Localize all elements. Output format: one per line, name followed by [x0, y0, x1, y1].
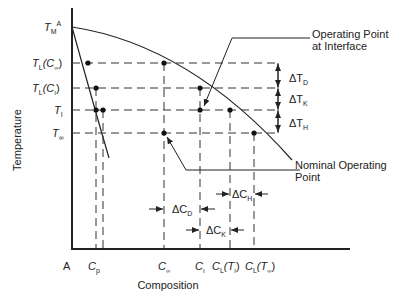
interface-annotation-line2: at Interface [312, 40, 367, 52]
data-points [85, 60, 256, 135]
label-CLTi: CL(TI) [212, 260, 240, 274]
label-TLCinf: TL(C∞) [32, 57, 62, 71]
temperature-guides [72, 63, 278, 133]
nominal-annotation-line2: Point [295, 171, 320, 183]
annotations: Operating Point at Interface Nominal Ope… [295, 28, 388, 183]
y-axis-title: Temperature [11, 109, 23, 171]
x-axis-title: Composition [137, 279, 198, 291]
phase-diagram: TMA TL(C∞) TL(CI) TI T∞ Temperature A Cp… [0, 0, 398, 301]
label-origin-A: A [63, 260, 71, 272]
label-dCH: ΔCH [232, 188, 252, 202]
label-dTH: ΔTH [289, 117, 308, 131]
axes [71, 8, 350, 250]
label-Ti: TI [54, 104, 63, 118]
label-Tinf: T∞ [52, 127, 64, 141]
nominal-annotation-line1: Nominal Operating [295, 159, 387, 171]
label-TMA: TMA [44, 20, 62, 35]
label-dTD: ΔTD [289, 72, 308, 86]
liquidus-curve [72, 27, 292, 160]
interface-annotation-line1: Operating Point [312, 28, 388, 40]
label-CLTinf: CL(T∞) [245, 260, 275, 274]
label-dCD: ΔCD [172, 203, 192, 217]
x-tick-labels: A Cp C∞ CI CL(TI) CL(T∞) [63, 260, 275, 275]
composition-guides [96, 63, 254, 249]
delta-t-labels: ΔTD ΔTK ΔTH [289, 72, 308, 131]
label-dCK: ΔCK [206, 224, 226, 238]
label-Cinf: C∞ [158, 260, 170, 274]
label-Cp: Cp [88, 260, 100, 275]
label-Ci: CI [195, 260, 205, 274]
y-tick-labels: TMA TL(C∞) TL(CI) TI T∞ [32, 20, 64, 141]
nominal-leader [167, 137, 300, 170]
label-TLCi: TL(CI) [32, 82, 60, 96]
label-dTK: ΔTK [289, 93, 308, 107]
